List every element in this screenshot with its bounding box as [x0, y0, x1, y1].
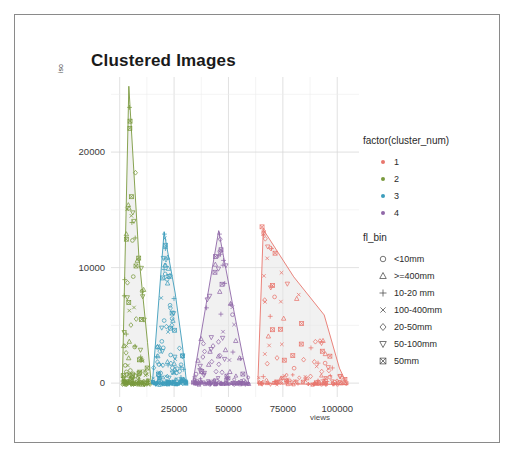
color-legend-label: 1	[394, 157, 399, 167]
circle-marker-icon	[375, 252, 391, 266]
color-legend-item[interactable]: 3	[375, 189, 399, 203]
shape-legend-label: <10mm	[394, 254, 424, 264]
shape-legend-label: 100-400mm	[394, 305, 442, 315]
x-tick-label: 25000	[144, 403, 204, 414]
shape-legend-item[interactable]: <10mm	[375, 252, 424, 266]
x-axis-label: views	[310, 413, 330, 422]
triangle-down-marker-icon	[375, 337, 391, 351]
cluster-hull	[152, 232, 186, 384]
shape-legend-item[interactable]: 50mm	[375, 354, 419, 368]
shape-legend-item[interactable]: 20-50mm	[375, 320, 432, 334]
y-tick-label: 0	[53, 377, 105, 388]
color-legend-title: factor(cluster_num)	[363, 135, 449, 146]
x-tick-label: 0	[90, 403, 150, 414]
square-dot-icon	[375, 189, 391, 203]
color-legend-label: 3	[394, 191, 399, 201]
color-legend-label: 2	[394, 174, 399, 184]
shape-legend-label: 20-50mm	[394, 322, 432, 332]
plot-panel	[111, 77, 359, 397]
x-tick-label: 100000	[307, 403, 367, 414]
shape-legend-label: 50-100mm	[394, 339, 437, 349]
square-dot-icon	[375, 155, 391, 169]
y-tick-label: 10000	[53, 262, 105, 273]
shape-legend-label: 10-20 mm	[394, 288, 435, 298]
shape-legend-item[interactable]: >=400mm	[375, 269, 435, 283]
page-title: Clustered Images	[91, 51, 236, 71]
square-dot-icon	[375, 172, 391, 186]
cluster-points	[151, 232, 188, 387]
shape-legend-item[interactable]: 50-100mm	[375, 337, 437, 351]
triangle-up-marker-icon	[375, 269, 391, 283]
color-legend-item[interactable]: 1	[375, 155, 399, 169]
x-tick-label: 50000	[198, 403, 258, 414]
color-legend-item[interactable]: 4	[375, 206, 399, 220]
diamond-marker-icon	[375, 320, 391, 334]
square-dot-icon	[375, 206, 391, 220]
y-axis-label: iso	[57, 64, 64, 73]
shape-legend-label: >=400mm	[394, 271, 435, 281]
x-tick-label: 75000	[253, 403, 313, 414]
shape-legend-item[interactable]: 100-400mm	[375, 303, 442, 317]
color-legend-item[interactable]: 2	[375, 172, 399, 186]
shape-legend-label: 50mm	[394, 356, 419, 366]
y-tick-label: 20000	[53, 146, 105, 157]
shape-legend-title: fl_bin	[363, 232, 387, 243]
color-legend-label: 4	[394, 208, 399, 218]
cross-marker-icon	[375, 303, 391, 317]
scatter-plot-svg	[111, 77, 359, 397]
shape-legend-item[interactable]: 10-20 mm	[375, 286, 435, 300]
figure-frame: Clustered Images iso views 01000020000 0…	[14, 14, 500, 443]
square-crossed-marker-icon	[375, 354, 391, 368]
plus-marker-icon	[375, 286, 391, 300]
